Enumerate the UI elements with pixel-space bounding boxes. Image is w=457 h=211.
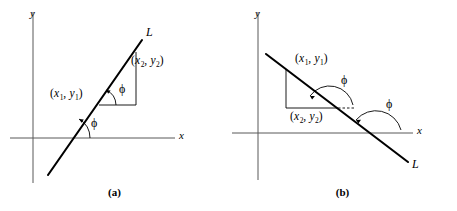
point2-y-b: y bbox=[309, 110, 314, 122]
panel-b: y x L (x1, y1) (x2, y2) ϕ ϕ (b) bbox=[228, 0, 457, 211]
y-axis-label-a: y bbox=[30, 8, 35, 19]
point2-y-a: y bbox=[150, 54, 155, 66]
angle-arrow-upper-b bbox=[310, 96, 315, 100]
angle-label-upper-b: ϕ bbox=[341, 74, 347, 86]
point1-y-a: y bbox=[69, 87, 74, 99]
caption-a: (a) bbox=[0, 186, 229, 198]
line-L-a bbox=[48, 40, 142, 175]
angle-label-lower-a: ϕ bbox=[91, 117, 97, 129]
point1-x-sub-a: 1 bbox=[60, 93, 64, 102]
figure-root: y x L (x1, y1) (x2, y2) ϕ ϕ (a) bbox=[0, 0, 457, 211]
point2-x-sub-a: 2 bbox=[141, 60, 145, 69]
point2-y-sub-a: 2 bbox=[156, 60, 160, 69]
point2-x-b: x bbox=[294, 110, 299, 122]
point2-label-b: (x2, y2) bbox=[290, 111, 323, 123]
panel-a-graphics bbox=[0, 0, 229, 211]
panel-b-graphics bbox=[228, 0, 457, 211]
y-axis-label-b: y bbox=[255, 8, 260, 19]
point1-label-a: (x1, y1) bbox=[50, 88, 83, 100]
point2-x-a: x bbox=[135, 54, 140, 66]
point1-x-b: x bbox=[299, 52, 304, 64]
point1-x-sub-b: 1 bbox=[305, 58, 309, 67]
point1-y-sub-b: 1 bbox=[320, 58, 324, 67]
caption-b: (b) bbox=[228, 186, 457, 198]
point1-close-paren-a: ) bbox=[79, 87, 83, 99]
point1-y-sub-a: 1 bbox=[75, 93, 79, 102]
point1-close-paren-b: ) bbox=[324, 52, 328, 64]
line-label-b: L bbox=[412, 158, 419, 170]
point2-x-sub-b: 2 bbox=[300, 116, 304, 125]
point2-y-sub-b: 2 bbox=[315, 116, 319, 125]
point1-label-b: (x1, y1) bbox=[295, 53, 328, 65]
line-label-a: L bbox=[146, 26, 153, 38]
angle-label-lower-b: ϕ bbox=[386, 98, 392, 110]
angle-label-upper-a: ϕ bbox=[119, 83, 125, 95]
x-axis-label-a: x bbox=[179, 130, 184, 141]
panel-a: y x L (x1, y1) (x2, y2) ϕ ϕ (a) bbox=[0, 0, 229, 211]
angle-arc-upper-b bbox=[310, 86, 353, 105]
point2-close-paren-a: ) bbox=[160, 54, 164, 66]
point2-label-a: (x2, y2) bbox=[131, 55, 164, 67]
x-axis-label-b: x bbox=[417, 125, 422, 136]
point2-close-paren-b: ) bbox=[319, 110, 323, 122]
point1-y-b: y bbox=[314, 52, 319, 64]
point1-x-a: x bbox=[54, 87, 59, 99]
